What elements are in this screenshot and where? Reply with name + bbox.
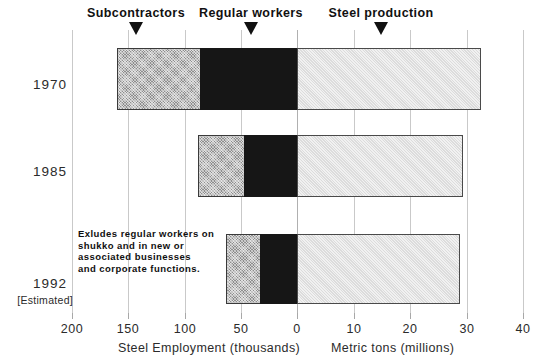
tick-label-30: 30: [437, 322, 497, 336]
bar-row-1970: [72, 48, 523, 110]
axis-title-steel-employment: Steel Employment (thousands): [118, 341, 300, 355]
tick-mark-40: [523, 313, 524, 319]
legend-label-steel-production: Steel production: [328, 6, 433, 20]
tick-label-20: 20: [380, 322, 440, 336]
bar-segment-regular-workers-1985: [244, 135, 297, 197]
tick-label-0: 0: [267, 322, 327, 336]
bar-segment-regular-workers-1970: [200, 48, 297, 110]
bar-segment-subcontractors-1970: [117, 48, 201, 110]
bar-segment-subcontractors-1985: [198, 135, 245, 197]
note-line-3: associated businesses: [78, 251, 243, 263]
bar-segment-steel-production-1970: [297, 48, 481, 110]
tick-label-200: 200: [42, 322, 102, 336]
steel-employment-production-chart: Subcontractors Regular workers Steel pro…: [0, 0, 539, 363]
note-line-2: shukko and in new or: [78, 240, 243, 252]
category-sublabel-1992-estimated: [Estimated]: [1, 294, 73, 306]
tick-mark-10: [354, 313, 355, 319]
gridline-40: [523, 30, 524, 313]
category-label-1985: 1985: [5, 164, 67, 179]
tick-label-10: 10: [324, 322, 384, 336]
axis-title-metric-tons: Metric tons (millions): [331, 341, 454, 355]
bar-segment-regular-workers-1992: [260, 234, 297, 304]
tick-label-150: 150: [98, 322, 158, 336]
legend-label-subcontractors: Subcontractors: [87, 6, 185, 20]
note-line-1: Exludes regular workers on: [78, 228, 243, 240]
tick-mark-100: [185, 313, 186, 319]
tick-mark-20: [410, 313, 411, 319]
legend-label-regular-workers: Regular workers: [199, 6, 303, 20]
note-line-4: and corporate functions.: [78, 263, 243, 275]
category-label-1970: 1970: [5, 77, 67, 92]
tick-mark-30: [467, 313, 468, 319]
tick-mark-200: [72, 313, 73, 319]
tick-mark-150: [128, 313, 129, 319]
tick-mark-50: [241, 313, 242, 319]
category-label-1992: 1992: [5, 276, 67, 291]
bar-row-1985: [72, 135, 523, 197]
chart-annotation-note: Exludes regular workers on shukko and in…: [78, 228, 243, 274]
tick-label-100: 100: [155, 322, 215, 336]
tick-label-50: 50: [211, 322, 271, 336]
bar-segment-steel-production-1985: [297, 135, 463, 197]
tick-mark-0: [297, 313, 298, 319]
bar-segment-steel-production-1992: [297, 234, 460, 304]
tick-label-40: 40: [493, 322, 539, 336]
